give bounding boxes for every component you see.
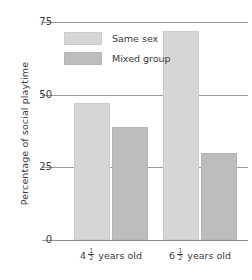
bar-same-sex-group-1 [74,103,110,240]
y-axis-tick-label: 50 [12,90,52,100]
x-label-whole-number: 6 [169,250,175,261]
legend-swatch-same-sex [64,32,102,45]
legend-label-same-sex: Same sex [112,33,158,44]
y-axis-tick-label: 25 [12,162,52,172]
legend-item-same-sex: Same sex [64,32,171,45]
x-axis-baseline [56,240,248,241]
x-axis-group-label-2: 612years old [149,248,251,262]
legend-swatch-mixed-group [64,52,102,65]
y-axis-tick-label: 0 [12,235,52,245]
x-label-fraction: 12 [88,248,94,262]
x-label-fraction: 12 [177,248,183,262]
legend-label-mixed-group: Mixed group [112,53,171,64]
bar-chart: Percentage of social playtime 0255075 41… [0,0,252,280]
gridline [56,95,248,96]
x-label-whole-number: 4 [80,250,86,261]
x-axis-group-label-1: 412years old [60,248,162,262]
chart-legend: Same sex Mixed group [64,32,171,72]
fraction-denominator: 2 [177,254,183,262]
y-axis-title: Percentage of social playtime [19,44,30,224]
legend-item-mixed-group: Mixed group [64,52,171,65]
bar-mixed-group-group-2 [201,153,237,240]
x-label-suffix: years old [187,250,231,261]
bar-mixed-group-group-1 [112,127,148,240]
gridline [56,22,248,23]
fraction-numerator: 1 [88,248,94,255]
fraction-numerator: 1 [177,248,183,255]
x-label-suffix: years old [98,250,142,261]
fraction-denominator: 2 [88,254,94,262]
y-axis-tick-label: 75 [12,17,52,27]
